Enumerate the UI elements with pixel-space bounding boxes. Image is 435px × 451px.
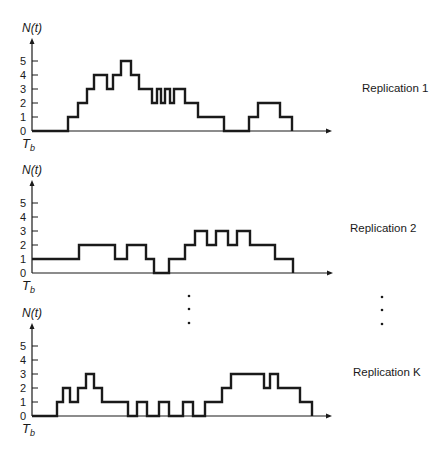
replication-label: Replication K: [353, 366, 421, 378]
y-tick-label: 3: [20, 368, 26, 380]
y-tick-label: 5: [20, 340, 26, 352]
y-tick-label: 4: [20, 354, 26, 366]
sample-path-step-line: [32, 61, 292, 131]
y-axis-arrow-icon: [30, 38, 35, 44]
origin-label: Tb: [22, 421, 35, 438]
y-tick-label: 5: [20, 197, 26, 209]
y-tick-label: 4: [20, 69, 26, 81]
sample-path-step-line: [32, 231, 293, 273]
replication-diagram: 012345N(t)TbReplication 1012345N(t)TbRep…: [0, 0, 435, 451]
y-axis-arrow-icon: [30, 323, 35, 329]
y-axis-label: N(t): [22, 306, 42, 320]
y-axis-arrow-icon: [30, 180, 35, 186]
origin-label: Tb: [22, 136, 35, 153]
y-tick-label: 3: [20, 83, 26, 95]
y-tick-label: 4: [20, 211, 26, 223]
y-tick-label: 2: [20, 382, 26, 394]
y-tick-label: 5: [20, 55, 26, 67]
y-tick-label: 1: [20, 253, 26, 265]
x-axis-arrow-icon: [326, 414, 332, 419]
y-tick-label: 3: [20, 225, 26, 237]
replication-label: Replication 1: [362, 82, 428, 94]
y-tick-label: 1: [20, 111, 26, 123]
replication-panel-1: 012345N(t)TbReplication 1: [20, 21, 429, 153]
y-axis-label: N(t): [22, 21, 42, 35]
x-axis-arrow-icon: [327, 271, 333, 276]
vertical-ellipsis-icon: [188, 295, 191, 325]
replication-label: Replication 2: [350, 222, 416, 234]
sample-path-step-line: [32, 374, 312, 416]
y-tick-label: 2: [20, 239, 26, 251]
replication-panel-3: 012345N(t)TbReplication K: [20, 306, 421, 438]
y-axis-label: N(t): [22, 163, 42, 177]
replication-panel-2: 012345N(t)TbReplication 2: [20, 163, 417, 295]
origin-label: Tb: [22, 278, 35, 295]
vertical-ellipsis-icon: [381, 296, 384, 326]
y-tick-label: 2: [20, 97, 26, 109]
y-tick-label: 1: [20, 396, 26, 408]
x-axis-arrow-icon: [326, 129, 332, 134]
